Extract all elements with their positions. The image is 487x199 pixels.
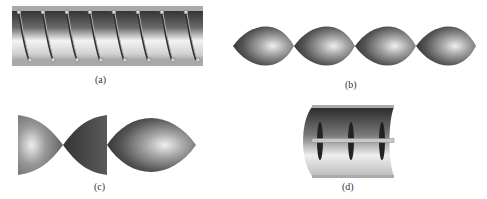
caption-b: (b) [345,79,357,91]
figure-graphics [0,0,487,199]
caption-c: (c) [94,181,105,193]
caption-a: (a) [95,74,106,86]
panel-c-half-and-full-lens [18,115,196,175]
caption-d: (d) [342,181,354,193]
panel-a-tube-with-helical-wire [12,6,203,66]
panel-d-half-cylinder-with-rod-and-fins [303,105,394,178]
figure-canvas: (a) (b) (c) (d) [0,0,487,199]
panel-b-lens-chain [233,26,476,65]
